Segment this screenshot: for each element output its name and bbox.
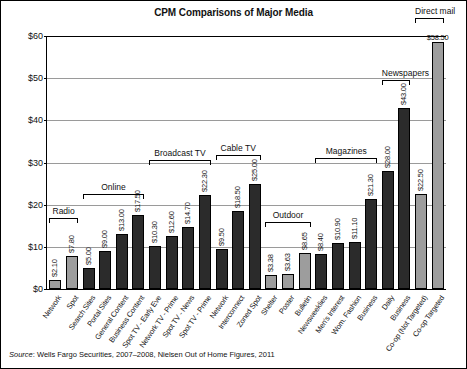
gridline xyxy=(47,78,446,79)
y-axis-tick-label: $60 xyxy=(28,31,43,41)
bracket-line xyxy=(216,155,261,156)
bar-value-label: $11.10 xyxy=(350,218,359,239)
bar-value-label: $7.80 xyxy=(67,235,76,253)
source-note: Source: Wells Fargo Securities, 2007–200… xyxy=(9,350,275,359)
y-axis-tick-mark xyxy=(44,78,47,79)
group-label: Broadcast TV xyxy=(149,148,211,158)
bar-value-label: $43.00 xyxy=(400,83,409,105)
bracket-tick-left xyxy=(382,80,383,85)
y-axis-tick-label: $10 xyxy=(28,242,43,252)
bracket-tick-right xyxy=(77,218,78,223)
y-axis-tick-label: $30 xyxy=(28,158,43,168)
bracket-tick-left xyxy=(315,158,316,163)
group-label: Online xyxy=(83,182,145,192)
bracket-tick-left xyxy=(83,194,84,199)
group-label: Direct mail xyxy=(415,6,444,16)
bar-value-label: $28.00 xyxy=(383,146,392,168)
y-axis-tick-mark xyxy=(44,205,47,206)
bracket-tick-right xyxy=(409,80,410,85)
group-label: Cable TV xyxy=(216,143,261,153)
group-label: Radio xyxy=(49,206,78,216)
gridline xyxy=(47,36,446,37)
bracket-line xyxy=(149,160,211,161)
bar: $58.50 xyxy=(432,42,444,289)
bracket-tick-left xyxy=(149,160,150,165)
plot-area: $0$10$20$30$40$50$60 $2.10$7.80$5.00$9.0… xyxy=(46,36,446,290)
group-label: Magazines xyxy=(315,146,377,156)
bar-value-label: $9.00 xyxy=(100,230,109,248)
bracket-line xyxy=(83,194,145,195)
bracket-tick-right xyxy=(310,222,311,227)
bracket-tick-right xyxy=(376,158,377,163)
bracket-tick-left xyxy=(216,155,217,160)
bracket-line xyxy=(382,80,411,81)
y-axis-tick-label: $20 xyxy=(28,200,43,210)
y-axis-tick-mark xyxy=(44,163,47,164)
bracket-tick-left xyxy=(415,18,416,23)
y-axis-tick-mark xyxy=(44,247,47,248)
y-axis-tick-mark xyxy=(44,289,47,290)
bar-value-label: $58.50 xyxy=(427,33,449,42)
bracket-line xyxy=(315,158,377,159)
y-axis-tick-label: $50 xyxy=(28,73,43,83)
bar-value-label: $18.50 xyxy=(233,186,242,208)
group-label: Newspapers xyxy=(382,68,411,78)
bracket-tick-right xyxy=(443,18,444,23)
source-text: : Wells Fargo Securities, 2007–2008, Nie… xyxy=(33,350,275,359)
bar-value-label: $14.70 xyxy=(183,202,192,224)
bar-value-label: $21.30 xyxy=(366,174,375,196)
bar-value-label: $13.00 xyxy=(117,209,126,231)
bar: $43.00 xyxy=(398,108,410,289)
bar-value-label: $10.90 xyxy=(333,218,342,240)
bar-value-label: $8.40 xyxy=(316,233,325,251)
group-label: Outdoor xyxy=(265,210,310,220)
bar-value-label: $8.65 xyxy=(300,232,309,250)
gridline xyxy=(47,120,446,121)
bracket-tick-right xyxy=(260,155,261,160)
page-title: CPM Comparisons of Major Media xyxy=(1,7,466,18)
bracket-tick-right xyxy=(143,194,144,199)
bracket-tick-left xyxy=(49,218,50,223)
bracket-line xyxy=(49,218,78,219)
y-axis-tick-mark xyxy=(44,120,47,121)
bar-value-label: $5.00 xyxy=(84,247,93,265)
bar-value-label: $10.30 xyxy=(150,221,159,243)
y-axis-tick-label: $0 xyxy=(33,284,43,294)
y-axis-tick-label: $40 xyxy=(28,115,43,125)
bar-value-label: $22.30 xyxy=(200,170,209,192)
bracket-tick-left xyxy=(265,222,266,227)
bracket-line xyxy=(415,18,444,19)
bar-value-label: $22.50 xyxy=(416,169,425,191)
bracket-line xyxy=(265,222,310,223)
x-axis-tick-text: Network xyxy=(41,292,64,320)
bar-value-label: $2.10 xyxy=(50,259,59,277)
y-axis-tick-mark xyxy=(44,36,47,37)
bracket-tick-right xyxy=(210,160,211,165)
bar-value-label: $12.60 xyxy=(167,211,176,233)
bar-value-label: $9.50 xyxy=(217,228,226,246)
bar-value-label: $25.00 xyxy=(250,159,259,181)
source-prefix: Source xyxy=(9,350,33,359)
chart-frame: CPM Comparisons of Major Media $0$10$20$… xyxy=(0,0,467,369)
